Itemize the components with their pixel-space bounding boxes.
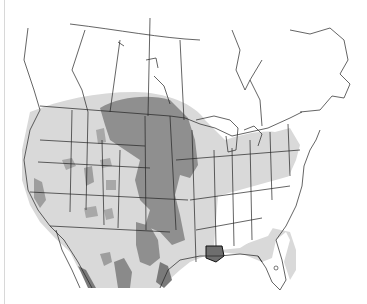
map-canvas (0, 0, 367, 304)
ontario-quebec-border (250, 80, 262, 126)
maritimes-coast (300, 74, 350, 112)
northern-line (70, 24, 200, 40)
range-map (0, 0, 367, 304)
hudson-bay-coast (232, 30, 262, 90)
labrador-coast (290, 28, 348, 74)
florida-lake-marker (274, 266, 278, 270)
dark-patch-colorado (106, 180, 116, 190)
